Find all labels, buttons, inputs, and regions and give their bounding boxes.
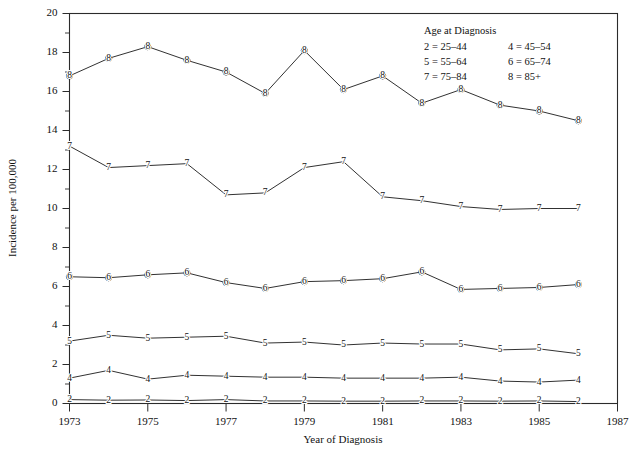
- x-tick-label: 1973: [59, 415, 82, 427]
- marker-6: 6: [419, 266, 424, 276]
- marker-7: 7: [459, 201, 464, 211]
- marker-6: 6: [459, 284, 464, 294]
- marker-5: 5: [185, 332, 190, 342]
- x-tick-label: 1979: [293, 415, 316, 427]
- marker-6: 6: [302, 276, 307, 286]
- marker-8: 8: [224, 66, 229, 76]
- marker-5: 5: [380, 338, 385, 348]
- series-6: 66666666666666: [66, 266, 581, 294]
- marker-7: 7: [419, 195, 424, 205]
- marker-4: 4: [67, 373, 72, 383]
- x-tick-label: 1975: [137, 415, 160, 427]
- marker-2: 2: [576, 396, 581, 406]
- marker-8: 8: [537, 105, 542, 115]
- legend-entry-2: 2 = 25–44: [424, 40, 508, 55]
- marker-7: 7: [224, 189, 229, 199]
- legend-row: 7 = 75–84 8 = 85+: [424, 70, 614, 85]
- marker-8: 8: [498, 100, 503, 110]
- marker-8: 8: [302, 45, 307, 55]
- marker-4: 4: [380, 373, 385, 383]
- marker-6: 6: [67, 271, 72, 281]
- marker-8: 8: [341, 84, 346, 94]
- marker-6: 6: [224, 277, 229, 287]
- marker-8: 8: [185, 55, 190, 65]
- y-tick-label: 18: [47, 45, 59, 57]
- marker-4: 4: [459, 372, 464, 382]
- marker-6: 6: [576, 279, 581, 289]
- marker-4: 4: [106, 365, 111, 375]
- marker-2: 2: [498, 396, 503, 406]
- x-tick-label: 1983: [450, 415, 473, 427]
- incidence-line-chart: 02468101214161820 1973197519771979198119…: [0, 0, 643, 468]
- marker-8: 8: [380, 70, 385, 80]
- x-tick-label: 1977: [215, 415, 238, 427]
- marker-7: 7: [537, 203, 542, 213]
- y-tick-label: 2: [52, 357, 58, 369]
- marker-6: 6: [263, 283, 268, 293]
- marker-6: 6: [537, 282, 542, 292]
- marker-6: 6: [185, 267, 190, 277]
- legend-title: Age at Diagnosis: [424, 24, 614, 39]
- marker-2: 2: [380, 396, 385, 406]
- marker-6: 6: [380, 273, 385, 283]
- series-5: 55555555555555: [67, 330, 581, 359]
- marker-4: 4: [185, 370, 190, 380]
- y-tick-label: 8: [52, 240, 58, 252]
- x-tick-label: 1985: [528, 415, 551, 427]
- x-tick-label: 1987: [607, 415, 630, 427]
- marker-4: 4: [576, 375, 581, 385]
- marker-2: 2: [419, 395, 424, 405]
- marker-6: 6: [106, 272, 111, 282]
- legend-entry-7: 7 = 75–84: [424, 70, 508, 85]
- marker-7: 7: [341, 156, 346, 166]
- marker-6: 6: [145, 269, 150, 279]
- marker-4: 4: [224, 371, 229, 381]
- marker-7: 7: [185, 158, 190, 168]
- marker-5: 5: [419, 339, 424, 349]
- marker-8: 8: [67, 70, 72, 80]
- legend-row: 5 = 55–64 6 = 65–74: [424, 55, 614, 70]
- marker-5: 5: [459, 339, 464, 349]
- marker-4: 4: [498, 376, 503, 386]
- marker-7: 7: [302, 162, 307, 172]
- marker-5: 5: [263, 338, 268, 348]
- marker-8: 8: [263, 88, 268, 98]
- marker-4: 4: [263, 372, 268, 382]
- marker-2: 2: [67, 394, 72, 404]
- marker-8: 8: [459, 84, 464, 94]
- series-4: 44444444444444: [67, 365, 581, 387]
- marker-8: 8: [106, 53, 111, 63]
- y-tick-label: 16: [47, 84, 59, 96]
- legend-entry-8: 8 = 85+: [508, 70, 541, 85]
- y-tick-label: 10: [47, 201, 59, 213]
- x-axis-title: Year of Diagnosis: [304, 433, 383, 445]
- marker-4: 4: [302, 372, 307, 382]
- marker-2: 2: [185, 395, 190, 405]
- series-2: 22222222222222: [67, 394, 581, 406]
- marker-5: 5: [67, 336, 72, 346]
- marker-5: 5: [341, 339, 346, 349]
- marker-8: 8: [576, 115, 581, 125]
- series-7: 77777777777777: [67, 141, 581, 214]
- marker-5: 5: [145, 333, 150, 343]
- marker-5: 5: [537, 343, 542, 353]
- y-axis-tick-labels: 02468101214161820: [47, 6, 59, 408]
- marker-2: 2: [459, 395, 464, 405]
- marker-5: 5: [302, 337, 307, 347]
- marker-4: 4: [341, 373, 346, 383]
- marker-2: 2: [106, 395, 111, 405]
- y-tick-label: 14: [47, 123, 59, 135]
- y-tick-label: 4: [52, 318, 58, 330]
- marker-6: 6: [498, 283, 503, 293]
- marker-7: 7: [576, 203, 581, 213]
- y-tick-label: 6: [52, 279, 58, 291]
- marker-7: 7: [498, 204, 503, 214]
- data-series-layer: 8888888888888877777777777777666666666666…: [66, 41, 581, 406]
- marker-5: 5: [498, 344, 503, 354]
- marker-5: 5: [224, 331, 229, 341]
- marker-7: 7: [263, 187, 268, 197]
- y-tick-label: 12: [47, 162, 58, 174]
- y-axis-title: Incidence per 100,000: [6, 158, 18, 257]
- marker-8: 8: [419, 98, 424, 108]
- legend-entry-4: 4 = 45–54: [508, 40, 551, 55]
